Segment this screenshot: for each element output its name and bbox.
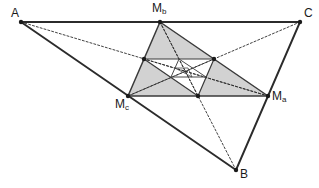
vertex-label-b-text: B (240, 167, 248, 181)
vertex-label-b: B (240, 168, 248, 180)
geometry-figure: ABCMaMbMc (0, 0, 319, 188)
vertex-label-c-text: C (304, 6, 313, 20)
vertex-label-a-text: A (11, 6, 19, 20)
vertex-dot-c (298, 20, 302, 24)
vertex-label-c: C (304, 7, 313, 19)
vertex-dot-l2b (196, 94, 200, 98)
vertex-label-mc: Mc (115, 98, 129, 110)
vertex-label-ma-text: M (272, 89, 282, 103)
vertex-dot-mb (158, 20, 162, 24)
vertex-label-ma: Ma (272, 90, 286, 102)
vertex-dot-l2a (212, 57, 216, 61)
vertex-label-mc-text: M (115, 97, 125, 111)
vertex-dot-l2c (142, 57, 146, 61)
vertex-label-a: A (11, 7, 19, 19)
vertex-label-mb: Mb (152, 2, 166, 14)
vertex-label-ma-subscript: a (282, 95, 286, 104)
vertex-label-mc-subscript: c (125, 103, 129, 112)
vertex-dot-b (234, 168, 238, 172)
vertex-dot-a (19, 20, 23, 24)
vertex-dot-ma (266, 94, 270, 98)
vertex-label-mb-subscript: b (162, 7, 166, 16)
vertex-label-mb-text: M (152, 1, 162, 15)
